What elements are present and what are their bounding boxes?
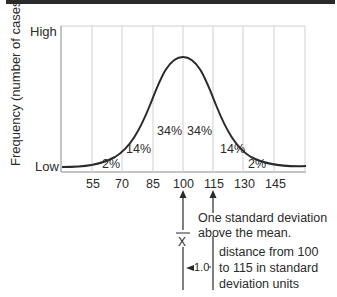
sd-note-line2: above the mean.	[198, 226, 291, 241]
pct-left-14: 14%	[126, 143, 151, 156]
distance-note-line3: deviation units	[219, 277, 299, 292]
x-tick-55: 55	[86, 178, 100, 191]
distance-note-line2: to 115 in standard	[219, 261, 318, 276]
distance-value: 1.0	[194, 262, 209, 273]
pct-right-2: 2%	[248, 158, 266, 171]
sd-arrow	[210, 190, 217, 213]
pct-right-14: 14%	[220, 143, 245, 156]
x-tick-115: 115	[204, 178, 224, 191]
x-tick-70: 70	[115, 178, 129, 191]
mean-symbol: X	[178, 236, 186, 248]
x-tick-85: 85	[146, 178, 160, 191]
x-tick-130: 130	[234, 178, 255, 191]
y-tick-high: High	[30, 25, 57, 38]
pct-left-2: 2%	[102, 158, 120, 171]
pct-left-34: 34%	[157, 125, 182, 138]
mean-arrow	[180, 190, 187, 230]
y-axis-title: Frequency (number of cases)	[8, 0, 23, 166]
distance-arrowhead	[186, 265, 194, 271]
pct-right-34: 34%	[187, 125, 212, 138]
normal-curve	[62, 57, 306, 167]
distance-note-line1: distance from 100	[219, 245, 318, 260]
x-tick-100: 100	[173, 178, 194, 191]
x-tick-145: 145	[265, 178, 286, 191]
sd-note-line1: One standard deviation	[198, 211, 327, 226]
y-tick-low: Low	[35, 160, 59, 173]
